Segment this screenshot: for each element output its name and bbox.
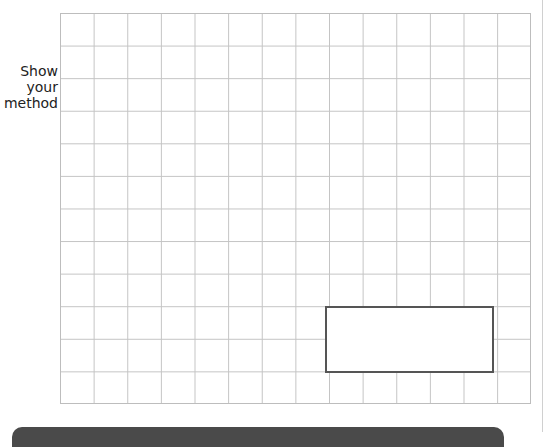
label-line-1: Show	[0, 63, 58, 79]
next-question-bar	[12, 427, 504, 447]
label-line-3: method	[0, 95, 58, 111]
show-your-method-label: Show your method	[0, 63, 58, 111]
answer-box[interactable]	[325, 306, 494, 373]
label-line-2: your	[0, 79, 58, 95]
page-margin-rule	[542, 0, 543, 432]
